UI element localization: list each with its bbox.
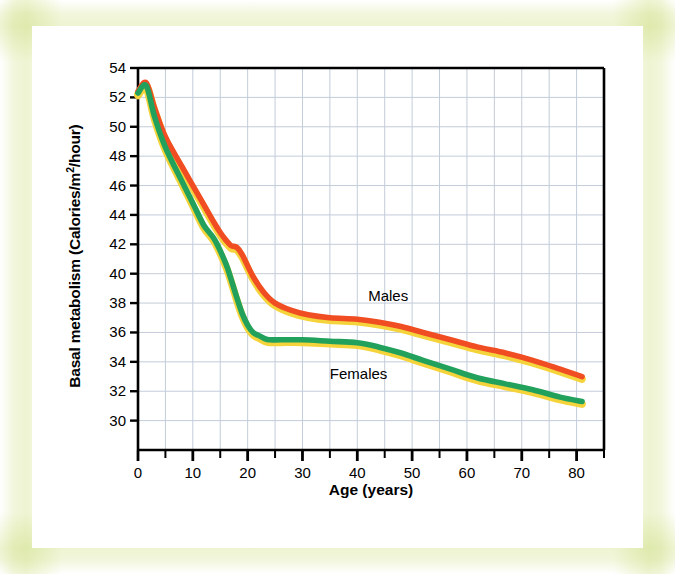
y-axis-title: Basal metabolism (Calories/m2/hour): [64, 86, 84, 426]
y-axis-tick-label: 42: [92, 237, 126, 251]
y-axis-tick-label: 30: [92, 414, 126, 428]
y-axis-tick-label: 40: [92, 267, 126, 281]
y-axis-tick-label: 48: [92, 149, 126, 163]
x-axis-tick-label: 60: [450, 466, 484, 480]
series-label-males: Males: [368, 287, 408, 304]
y-axis-tick-label: 34: [92, 355, 126, 369]
x-axis-tick-label: 10: [176, 466, 210, 480]
y-axis-tick-label: 50: [92, 120, 126, 134]
x-axis-tick-label: 50: [395, 466, 429, 480]
y-axis-title-suffix: /hour): [66, 124, 83, 167]
x-axis-tick-label: 80: [560, 466, 594, 480]
y-axis-tick-label: 44: [92, 208, 126, 222]
x-axis-tick-label: 70: [505, 466, 539, 480]
y-axis-tick-label: 52: [92, 90, 126, 104]
x-axis-tick-label: 20: [231, 466, 265, 480]
x-axis-title: Age (years): [138, 481, 604, 499]
y-axis-tick-label: 38: [92, 296, 126, 310]
y-axis-tick-label: 54: [92, 61, 126, 75]
x-axis-tick-label: 40: [340, 466, 374, 480]
x-axis-tick-label: 0: [121, 466, 155, 480]
series-label-females: Females: [330, 365, 388, 382]
y-axis-title-exponent: 2: [64, 167, 76, 173]
y-axis-title-prefix: Basal metabolism (Calories/m: [66, 173, 83, 388]
y-axis-tick-label: 36: [92, 325, 126, 339]
chart-page: 30323436384042444648505254 0102030405060…: [0, 0, 675, 574]
data-curves: [138, 82, 582, 404]
x-axis-tick-label: 30: [285, 466, 319, 480]
y-axis-tick-label: 46: [92, 179, 126, 193]
y-axis-tick-label: 32: [92, 384, 126, 398]
